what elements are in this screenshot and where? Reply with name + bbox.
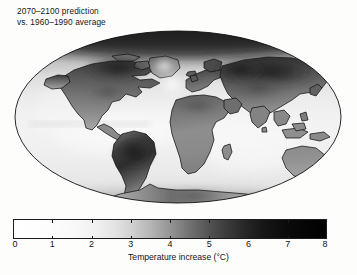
region-new-zealand xyxy=(336,170,344,180)
climate-projection-figure: 2070–2100 prediction vs. 1960–1990 avera… xyxy=(0,0,357,275)
colorbar-tick-7 xyxy=(288,219,289,223)
hotspot-northern-canada xyxy=(84,55,152,81)
world-map xyxy=(0,30,357,212)
arctic-warming-band xyxy=(3,30,353,58)
hotspot-amazon xyxy=(113,135,155,169)
figure-title-line-1: 2070–2100 prediction xyxy=(17,6,106,17)
figure-title: 2070–2100 prediction vs. 1960–1990 avera… xyxy=(17,6,106,27)
world-map-svg xyxy=(0,30,357,212)
colorbar-label-2: 2 xyxy=(89,239,94,249)
colorbar-label-5: 5 xyxy=(207,239,212,249)
colorbar-tick-3 xyxy=(131,219,132,223)
region-sri-lanka xyxy=(262,127,267,132)
colorbar-label-3: 3 xyxy=(128,239,133,249)
coolspot-north-atlantic xyxy=(158,74,186,94)
colorbar-tick-5 xyxy=(209,219,210,223)
colorbar-label-1: 1 xyxy=(50,239,55,249)
colorbar-tick-1 xyxy=(52,219,53,223)
colorbar-axis-label: Temperature increase (°C) xyxy=(0,252,357,262)
colorbar-label-8: 8 xyxy=(322,239,327,249)
colorbar xyxy=(13,219,327,239)
colorbar-label-0: 0 xyxy=(12,239,17,249)
hotspot-central-us xyxy=(88,83,128,101)
figure-title-line-2: vs. 1960–1990 average xyxy=(17,17,106,28)
colorbar-tick-6 xyxy=(249,219,250,223)
coolspot-greenland xyxy=(153,58,175,74)
colorbar-tick-labels: 0 1 2 3 4 5 6 7 8 xyxy=(13,239,327,251)
hotspot-sahara xyxy=(174,97,222,115)
hotspot-central-asia xyxy=(228,76,288,100)
colorbar-label-4: 4 xyxy=(167,239,172,249)
colorbar-tick-4 xyxy=(170,219,171,223)
region-tasmania xyxy=(312,179,319,185)
colorbar-tick-2 xyxy=(92,219,93,223)
hotspot-antarctic-peninsula xyxy=(234,194,270,206)
colorbar-label-7: 7 xyxy=(285,239,290,249)
colorbar-label-6: 6 xyxy=(246,239,251,249)
